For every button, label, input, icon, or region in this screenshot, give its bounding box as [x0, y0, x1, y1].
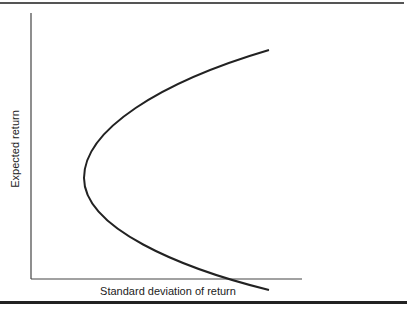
bottom-rule [0, 301, 407, 304]
frontier-chart [0, 0, 409, 316]
frontier-curve [84, 50, 269, 290]
y-axis-label: Expected return [9, 110, 21, 188]
x-axis-label: Standard deviation of return [0, 285, 336, 297]
